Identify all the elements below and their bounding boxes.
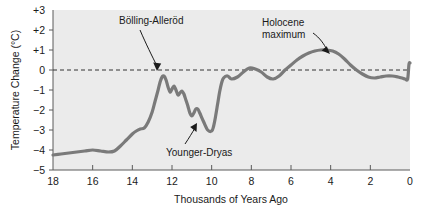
y-axis-tick-marks [49,30,53,170]
annotation-holocene-label-line2: maximum [262,29,305,40]
x-tick-label: 14 [126,175,138,187]
y-tick-label: +2 [33,24,45,36]
x-tick-label: 2 [367,175,373,187]
y-tick-label: −1 [33,84,45,96]
x-tick-label: 6 [288,175,294,187]
x-tick-label: 12 [166,175,178,187]
annotation-holocene-label-line1: Holocene [262,17,305,28]
y-axis-tick-labels: +3+2+10−1−2−3−4−5 [33,4,45,176]
y-tick-label: +3 [33,4,45,16]
plot-area-background [53,10,410,170]
x-axis-tick-labels: 181614121086420 [47,175,413,187]
x-tick-label: 16 [87,175,99,187]
y-tick-label: +1 [33,44,45,56]
y-tick-label: 0 [39,64,45,76]
chart-canvas: +3+2+10−1−2−3−4−5 181614121086420 Temper… [0,0,426,214]
y-axis-title: Temperature Change (°C) [9,30,21,150]
climate-temperature-chart: +3+2+10−1−2−3−4−5 181614121086420 Temper… [0,0,426,214]
y-tick-label: −5 [33,164,45,176]
annotation-bolling-allerod-label: Bölling-Alleröd [119,15,183,26]
x-tick-label: 0 [407,175,413,187]
y-tick-label: −4 [33,144,45,156]
x-tick-label: 10 [206,175,218,187]
x-tick-label: 4 [328,175,334,187]
x-axis-title: Thousands of Years Ago [174,193,288,205]
x-tick-label: 18 [47,175,59,187]
y-tick-label: −2 [33,104,45,116]
y-tick-label: −3 [33,124,45,136]
annotation-younger-dryas-label: Younger-Dryas [166,147,232,158]
x-tick-label: 8 [248,175,254,187]
